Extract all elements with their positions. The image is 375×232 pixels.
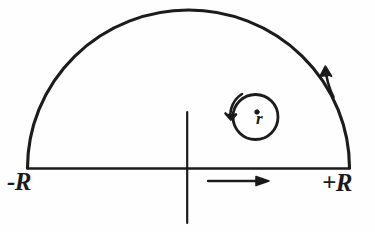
label-small-radius-r: r: [256, 110, 262, 127]
arc-direction-arrowhead: [320, 67, 331, 78]
semicircular-arc: [28, 10, 350, 168]
label-plus-r: +R: [322, 170, 352, 195]
contour-diagram-canvas: [0, 0, 375, 232]
axis-direction-arrowhead: [256, 177, 269, 186]
contour-diagram-figure: -R +R r: [0, 0, 375, 232]
label-minus-r: -R: [7, 169, 31, 194]
